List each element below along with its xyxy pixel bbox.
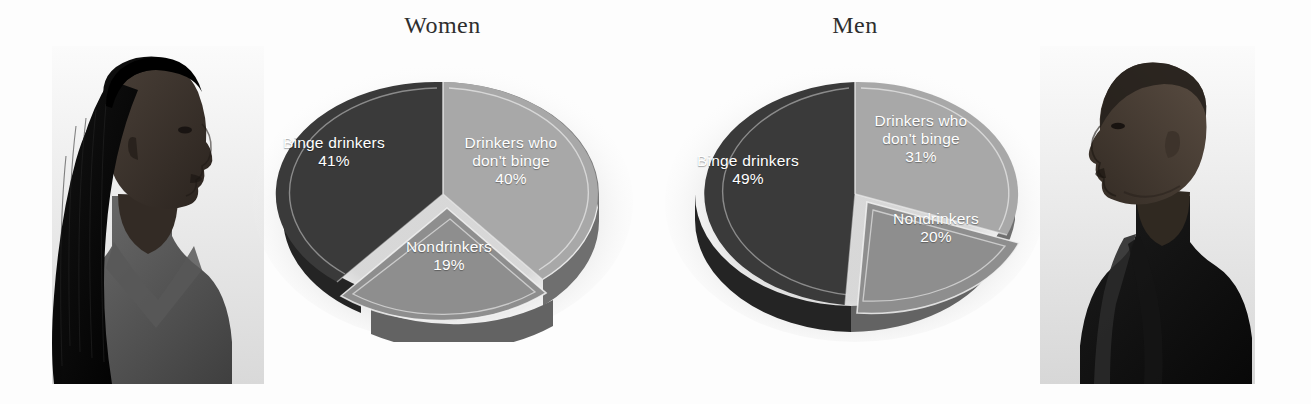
pie-men: Binge drinkers 49% Drinkers who don't bi… (650, 42, 1060, 352)
chart-title-women: Women (240, 8, 645, 42)
man-profile-photo (1040, 46, 1255, 384)
infographic-canvas: Women (0, 0, 1311, 404)
chart-title-men: Men (650, 8, 1060, 42)
woman-profile-photo (52, 46, 264, 384)
chart-women: Women (240, 8, 645, 352)
chart-men: Men (650, 8, 1060, 352)
pie-women: Binge drinkers 41% Drinkers who don't bi… (240, 42, 645, 352)
